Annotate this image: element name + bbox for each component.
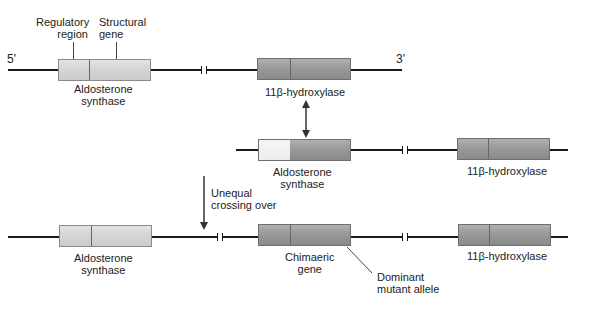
label-line2: synthase [74, 264, 133, 276]
gene-divider [91, 226, 92, 246]
row2-aldosterone-synthase-gene [258, 139, 351, 161]
annotation-leader [347, 247, 372, 273]
label-line1: Unequal [211, 187, 276, 199]
row3-chimaeric-label: Chimaeric gene [285, 251, 335, 275]
gene-divider [290, 225, 291, 245]
row3-chimaeric-gene [258, 224, 351, 246]
regulatory-segment-light [259, 140, 290, 160]
row3-hydroxylase-gene [458, 224, 551, 246]
gene-divider [489, 225, 490, 245]
row2-break-mark [402, 146, 403, 154]
row2-hydroxylase-gene [457, 138, 550, 160]
down-arrow-icon [200, 176, 208, 230]
row3-aldosterone-label: Aldosterone synthase [74, 252, 133, 276]
label-line2: crossing over [211, 199, 276, 211]
row3-break-mark [402, 233, 403, 241]
row3-break-mark [222, 233, 223, 241]
crossing-over-label: Unequal crossing over [211, 187, 276, 211]
double-headed-arrow-icon [302, 100, 310, 138]
label-line2: mutant allele [377, 283, 439, 295]
row2-aldosterone-label: Aldosterone synthase [273, 166, 332, 190]
row3-break-mark [217, 233, 218, 241]
label-line1: Aldosterone [273, 166, 332, 178]
label-line1: Aldosterone [74, 252, 133, 264]
row2-hydroxylase-label: 11β-hydroxylase [467, 165, 547, 177]
dominant-mutant-allele-label: Dominant mutant allele [377, 271, 439, 295]
gene-divider [488, 139, 489, 159]
label-line2: gene [285, 263, 335, 275]
label-line1: Chimaeric [285, 251, 335, 263]
row2-break-mark [407, 146, 408, 154]
label-line1: Dominant [377, 271, 439, 283]
label-line2: synthase [273, 178, 332, 190]
row3-break-mark [407, 233, 408, 241]
row3-aldosterone-synthase-gene [59, 225, 152, 247]
row3-hydroxylase-label: 11β-hydroxylase [467, 250, 547, 262]
